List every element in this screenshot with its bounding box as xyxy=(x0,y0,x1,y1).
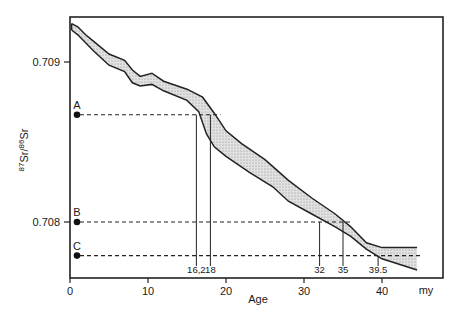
age-annotation: 32 xyxy=(314,264,325,275)
sample-point xyxy=(74,252,81,259)
y-axis-title: 87Sr/86Sr xyxy=(17,128,30,171)
band-upper-edge xyxy=(72,24,418,248)
plot-frame xyxy=(70,17,443,278)
y-title-base1: Sr xyxy=(18,151,30,162)
age-annotation: 39.5 xyxy=(369,264,388,275)
sample-label: A xyxy=(73,99,81,111)
x-tick-label: 10 xyxy=(142,285,154,297)
sample-point xyxy=(74,219,81,226)
seawater-envelope-band xyxy=(72,24,418,270)
strontium-isotope-chart: 0102030400.7090.708 ABC 16,218323539.5 A… xyxy=(0,0,456,320)
x-tick-label: 40 xyxy=(376,285,388,297)
y-title-base2: Sr xyxy=(18,128,30,139)
y-tick-label: 0.708 xyxy=(32,216,60,228)
age-annotation: 35 xyxy=(338,264,349,275)
age-annotation: 16,2 xyxy=(187,264,206,275)
svg-text:87Sr/86Sr: 87Sr/86Sr xyxy=(17,128,30,171)
sample-point xyxy=(74,112,81,119)
y-tick-label: 0.709 xyxy=(32,56,60,68)
sample-label: C xyxy=(73,240,81,252)
age-annotation: 18 xyxy=(205,264,216,275)
x-axis-title: Age xyxy=(248,293,268,305)
sample-points: ABC xyxy=(73,99,81,259)
sample-label: B xyxy=(73,206,80,218)
x-tick-label: 30 xyxy=(298,285,310,297)
x-tick-label: 0 xyxy=(67,285,73,297)
x-tick-label: 20 xyxy=(220,285,232,297)
x-axis-unit: my xyxy=(419,284,434,296)
age-annotations: 16,218323539.5 xyxy=(187,264,387,275)
